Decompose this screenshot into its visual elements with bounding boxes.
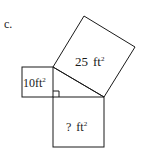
label-leg-a: 10ft2: [23, 76, 46, 90]
label-hypotenuse: 25ft2: [75, 54, 105, 69]
problem-label: c.: [4, 17, 12, 31]
right-angle-marker: [53, 91, 59, 97]
triangle-hypotenuse: [53, 67, 104, 97]
label-leg-b: ?ft2: [66, 120, 88, 134]
pythagorean-diagram: c. 10ft2 25ft2 ?ft2: [0, 0, 146, 163]
